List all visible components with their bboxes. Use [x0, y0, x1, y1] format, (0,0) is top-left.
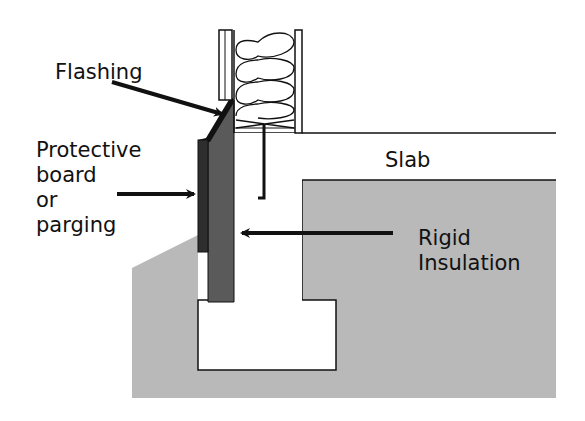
flashing-arrow [112, 82, 222, 114]
label-flashing-text: Flashing [55, 60, 143, 85]
foundation-wall [234, 133, 302, 301]
label-protective-board: Protective board or parging [36, 138, 141, 238]
label-flashing: Flashing [55, 60, 143, 85]
label-protective-line-2: board [36, 163, 141, 188]
protective-board [198, 140, 208, 252]
label-slab-text: Slab [385, 148, 430, 173]
label-rigid-line-2: Insulation [418, 251, 521, 276]
batt-insulation [236, 33, 294, 128]
label-slab: Slab [385, 148, 430, 173]
label-protective-line-3: or [36, 188, 141, 213]
label-protective-line-4: parging [36, 213, 141, 238]
soil [132, 180, 556, 398]
footing [198, 300, 336, 370]
label-rigid-insulation: Rigid Insulation [418, 226, 521, 276]
label-protective-line-1: Protective [36, 138, 141, 163]
label-rigid-line-1: Rigid [418, 226, 521, 251]
